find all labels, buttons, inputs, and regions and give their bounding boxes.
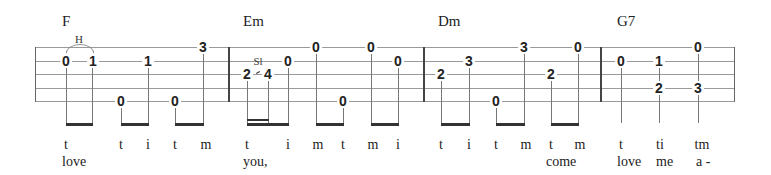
chord-label: Dm bbox=[438, 13, 461, 30]
lyric-word: love bbox=[617, 154, 641, 170]
beam bbox=[441, 123, 470, 126]
finger-label: t bbox=[245, 137, 249, 153]
finger-label: m bbox=[575, 137, 586, 153]
fret-number: 0 bbox=[282, 54, 294, 68]
finger-label: t bbox=[494, 137, 498, 153]
lyric-word: love bbox=[62, 154, 86, 170]
fret-number: 3 bbox=[518, 40, 530, 54]
fret-number: 0 bbox=[169, 94, 181, 108]
finger-label: t bbox=[64, 137, 68, 153]
note-stem bbox=[175, 108, 176, 123]
finger-label: i bbox=[146, 137, 150, 153]
finger-label: t bbox=[619, 137, 623, 153]
barline bbox=[734, 47, 735, 102]
note-stem bbox=[469, 67, 470, 123]
beam bbox=[496, 123, 525, 126]
note-stem bbox=[343, 108, 344, 123]
finger-label: t bbox=[549, 137, 553, 153]
barline bbox=[423, 47, 425, 102]
note-stem bbox=[121, 108, 122, 123]
note-stem bbox=[203, 54, 204, 123]
barline bbox=[228, 47, 230, 102]
lyric-word: a - bbox=[696, 154, 710, 170]
finger-label: t bbox=[439, 137, 443, 153]
chord-label: F bbox=[62, 13, 70, 30]
fret-number: 4 bbox=[262, 67, 274, 81]
finger-label: m bbox=[521, 137, 532, 153]
note-stem bbox=[398, 67, 399, 123]
beam bbox=[551, 123, 579, 126]
beam bbox=[121, 123, 149, 126]
lyric-word: you, bbox=[243, 154, 268, 170]
fret-number: 3 bbox=[692, 81, 704, 95]
fret-number: 2 bbox=[653, 81, 665, 95]
note-stem bbox=[247, 81, 248, 123]
finger-label: m bbox=[368, 137, 379, 153]
note-stem bbox=[268, 81, 269, 123]
hammer-arc bbox=[66, 44, 94, 53]
beam bbox=[316, 123, 344, 126]
slide-label: Sl bbox=[253, 55, 262, 67]
note-stem bbox=[316, 54, 317, 123]
chord-label: G7 bbox=[617, 13, 635, 30]
barline bbox=[600, 47, 602, 102]
note-stem bbox=[371, 54, 372, 123]
finger-label: t bbox=[119, 137, 123, 153]
fret-number: 3 bbox=[197, 40, 209, 54]
fret-number: 2 bbox=[241, 67, 253, 81]
finger-label: t bbox=[173, 137, 177, 153]
finger-label: i bbox=[286, 137, 290, 153]
string-4 bbox=[36, 88, 735, 89]
finger-label: i bbox=[467, 137, 471, 153]
lyric-word: me bbox=[656, 154, 673, 170]
note-stem bbox=[148, 67, 149, 123]
fret-number: 0 bbox=[572, 40, 584, 54]
note-stem bbox=[621, 67, 622, 123]
string-1 bbox=[36, 47, 735, 48]
fret-number: 1 bbox=[142, 54, 154, 68]
note-stem bbox=[524, 54, 525, 123]
lyric-word: come bbox=[546, 154, 576, 170]
fret-number: 0 bbox=[365, 40, 377, 54]
note-stem bbox=[551, 81, 552, 123]
note-stem bbox=[441, 81, 442, 123]
note-stem bbox=[92, 67, 93, 123]
fret-number: 0 bbox=[60, 54, 72, 68]
chord-label: Em bbox=[243, 13, 264, 30]
fret-number: 0 bbox=[310, 40, 322, 54]
hammer-label: H bbox=[75, 33, 83, 45]
fret-number: 0 bbox=[337, 94, 349, 108]
note-stem bbox=[496, 108, 497, 123]
finger-label: tm bbox=[695, 137, 710, 153]
fret-number: 3 bbox=[463, 54, 475, 68]
beam bbox=[66, 123, 93, 126]
fret-number: 1 bbox=[87, 54, 99, 68]
fret-number: 2 bbox=[435, 67, 447, 81]
finger-label: t bbox=[341, 137, 345, 153]
fret-number: 2 bbox=[545, 67, 557, 81]
note-stem bbox=[66, 67, 67, 123]
fret-number: 0 bbox=[392, 54, 404, 68]
fret-number: 1 bbox=[653, 54, 665, 68]
finger-label: m bbox=[313, 137, 324, 153]
note-stem bbox=[288, 67, 289, 123]
fret-number: 0 bbox=[490, 94, 502, 108]
beam bbox=[247, 123, 289, 126]
string-2 bbox=[36, 61, 735, 62]
note-stem bbox=[578, 54, 579, 123]
finger-label: i bbox=[396, 137, 400, 153]
fret-number: 0 bbox=[115, 94, 127, 108]
fret-number: 0 bbox=[692, 40, 704, 54]
barline bbox=[35, 47, 36, 102]
beam bbox=[175, 123, 204, 126]
finger-label: ti bbox=[656, 137, 664, 153]
string-3 bbox=[36, 74, 735, 75]
finger-label: m bbox=[201, 137, 212, 153]
beam bbox=[247, 119, 269, 121]
beam bbox=[371, 123, 399, 126]
fret-number: 0 bbox=[615, 54, 627, 68]
string-5 bbox=[36, 101, 735, 102]
